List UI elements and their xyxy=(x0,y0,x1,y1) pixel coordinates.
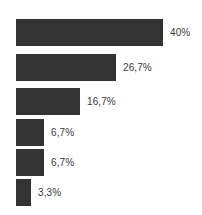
bar-row: 26,7% xyxy=(16,54,152,81)
bar-row: 6,7% xyxy=(16,119,74,146)
bar-mark xyxy=(16,88,80,115)
bar-mark xyxy=(16,19,163,46)
bar-mark xyxy=(16,54,116,81)
bar-mark xyxy=(16,119,44,146)
bar-value-label: 6,7% xyxy=(51,158,74,168)
bar-value-label: 26,7% xyxy=(123,63,152,73)
bar-value-label: 16,7% xyxy=(87,97,116,107)
bar-row: 3,3% xyxy=(16,179,61,206)
bar-value-label: 40% xyxy=(170,28,190,38)
bar-row: 6,7% xyxy=(16,149,74,176)
bar-mark xyxy=(16,149,44,176)
bar-row: 16,7% xyxy=(16,88,116,115)
bar-chart: 40% 26,7% 16,7% 6,7% 6,7% 3,3% xyxy=(0,0,202,215)
bar-row: 40% xyxy=(16,19,190,46)
bar-value-label: 3,3% xyxy=(38,188,61,198)
bar-mark xyxy=(16,179,31,206)
bar-value-label: 6,7% xyxy=(51,128,74,138)
